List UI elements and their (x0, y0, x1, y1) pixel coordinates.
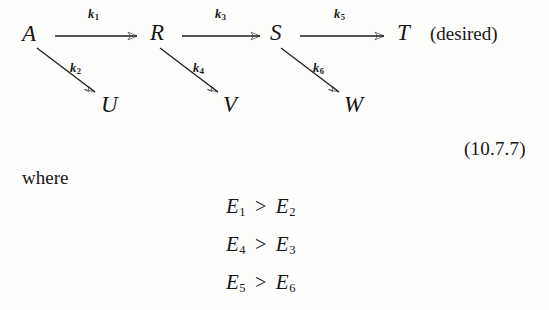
inequality-left-index: 4 (239, 243, 246, 257)
rate-index: 2 (77, 66, 81, 76)
rate-index: 3 (222, 12, 226, 22)
inequality-right-index: 6 (289, 281, 296, 295)
species-label-T: T (397, 21, 410, 44)
inequality-relation: > (255, 233, 267, 255)
rate-symbol: k (215, 7, 221, 21)
rate-index: 6 (320, 66, 324, 76)
arrow-S-to-T (300, 24, 395, 46)
inequality-right-symbol: E (276, 270, 289, 294)
rate-constant-k6: k6 (313, 62, 324, 75)
inequality-left-symbol: E (226, 270, 239, 294)
species-label-V: V (223, 93, 237, 116)
rate-symbol: k (334, 7, 340, 21)
desired-annotation: (desired) (430, 24, 498, 43)
rate-index: 4 (200, 66, 204, 76)
inequality-row-2: E4>E3 (226, 234, 296, 257)
species-label-R: R (150, 21, 164, 44)
rate-index: 1 (95, 12, 99, 22)
rate-symbol: k (88, 7, 94, 21)
inequality-row-1: E1>E2 (226, 196, 296, 219)
inequality-right-symbol: E (276, 194, 289, 218)
inequality-left-symbol: E (226, 194, 239, 218)
inequality-right-symbol: E (276, 232, 289, 256)
rate-constant-k5: k5 (334, 8, 345, 21)
inequality-left-index: 5 (239, 281, 246, 295)
rate-symbol: k (313, 61, 319, 75)
inequality-relation: > (255, 271, 267, 293)
rate-symbol: k (70, 61, 76, 75)
inequality-relation: > (255, 195, 267, 217)
species-label-A: A (22, 22, 36, 45)
inequality-row-3: E5>E6 (226, 272, 296, 295)
where-label: where (22, 168, 68, 187)
arrow-R-to-S (182, 24, 270, 46)
inequality-left-index: 1 (239, 205, 246, 219)
rate-constant-k4: k4 (193, 62, 204, 75)
rate-symbol: k (193, 61, 199, 75)
equation-number: (10.7.7) (464, 139, 526, 158)
rate-constant-k3: k3 (215, 8, 226, 21)
document-page: A R S T (desired) k1 k3 k5 k2 (0, 0, 549, 310)
species-label-W: W (344, 93, 363, 116)
rate-constant-k2: k2 (70, 62, 81, 75)
rate-index: 5 (341, 12, 345, 22)
species-label-S: S (270, 21, 282, 44)
inequality-right-index: 2 (289, 205, 296, 219)
inequality-right-index: 3 (289, 243, 296, 257)
inequality-left-symbol: E (226, 232, 239, 256)
arrow-A-to-R (55, 24, 147, 46)
species-label-U: U (101, 93, 118, 116)
rate-constant-k1: k1 (88, 8, 99, 21)
